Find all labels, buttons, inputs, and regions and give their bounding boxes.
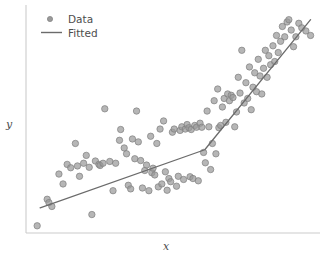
data-point	[123, 151, 129, 157]
data-point	[167, 179, 173, 185]
data-point	[132, 156, 138, 162]
legend-data-label: Data	[68, 13, 93, 25]
data-point	[67, 165, 73, 171]
data-point	[230, 94, 236, 100]
data-point	[146, 188, 152, 194]
data-point	[162, 169, 168, 175]
data-point	[60, 181, 66, 187]
data-point	[110, 188, 116, 194]
data-point	[154, 140, 160, 146]
data-point	[282, 34, 288, 40]
data-point	[273, 32, 279, 38]
data-point	[255, 56, 261, 62]
data-point	[116, 137, 122, 143]
data-point	[199, 124, 205, 130]
data-point	[56, 171, 62, 177]
data-point	[137, 157, 143, 163]
data-point	[180, 176, 186, 182]
y-axis-label: y	[6, 118, 12, 131]
data-point	[112, 160, 118, 166]
data-point	[239, 47, 245, 53]
legend: Data Fitted	[41, 13, 98, 39]
data-point	[157, 126, 163, 132]
data-point	[127, 186, 133, 192]
data-point	[243, 80, 249, 86]
data-point	[152, 172, 158, 178]
legend-fitted-label: Fitted	[68, 27, 98, 39]
scatter-points-group	[34, 17, 314, 230]
data-point	[135, 139, 141, 145]
data-point	[164, 187, 170, 193]
data-point	[260, 65, 266, 71]
data-point	[76, 173, 82, 179]
data-point	[259, 91, 265, 97]
scatter-plot-figure: Data Fitted y x	[0, 0, 333, 263]
data-point	[307, 32, 313, 38]
data-point	[83, 152, 89, 158]
data-point	[248, 107, 254, 113]
data-point	[121, 145, 127, 151]
data-point	[107, 158, 113, 164]
data-point	[74, 163, 80, 169]
data-point	[171, 126, 177, 132]
data-point	[133, 108, 139, 114]
x-axis-label: x	[163, 240, 169, 253]
data-point	[100, 160, 106, 166]
data-point	[173, 183, 179, 189]
data-point	[143, 162, 149, 168]
data-point	[286, 17, 292, 23]
data-point	[86, 164, 92, 170]
data-point	[206, 124, 212, 130]
data-point	[290, 44, 296, 50]
data-point	[266, 53, 272, 59]
data-point	[204, 108, 210, 114]
data-point	[202, 160, 208, 166]
data-point	[213, 151, 219, 157]
data-point	[211, 98, 217, 104]
data-point	[72, 140, 78, 146]
data-point	[147, 133, 153, 139]
data-point	[232, 124, 238, 130]
legend-data-marker	[47, 16, 52, 21]
data-point	[270, 43, 276, 49]
data-point	[246, 64, 252, 70]
data-point	[237, 90, 243, 96]
data-point	[159, 181, 165, 187]
plot-canvas: Data Fitted	[0, 0, 333, 263]
data-point	[160, 118, 166, 124]
data-point	[139, 185, 145, 191]
data-point	[89, 211, 95, 217]
data-point	[214, 86, 220, 92]
data-point	[288, 27, 294, 33]
data-point	[102, 106, 108, 112]
data-point	[275, 49, 281, 55]
data-point	[117, 126, 123, 132]
data-point	[34, 223, 40, 229]
data-point	[219, 104, 225, 110]
data-point	[235, 74, 241, 80]
data-point	[207, 166, 213, 172]
data-point	[80, 160, 86, 166]
data-point	[195, 178, 201, 184]
data-point	[129, 136, 135, 142]
